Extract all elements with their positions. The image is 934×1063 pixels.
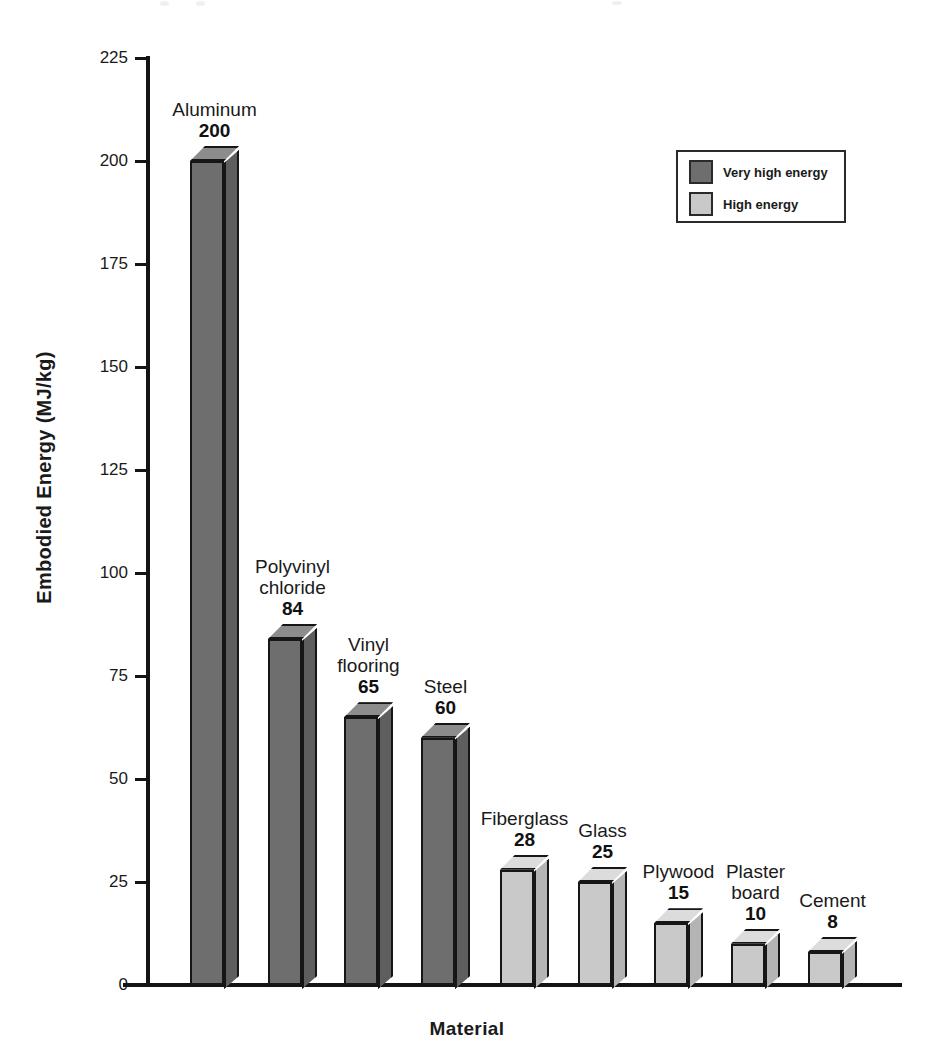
y-tick-mark [135,778,149,781]
legend-item-very-high-energy: Very high energy [689,160,828,184]
y-tick-mark [135,572,149,575]
bar-front-face [421,738,455,985]
y-tick-mark [135,469,149,472]
bar-side-face [534,859,549,989]
y-tick-mark [135,263,149,266]
bar-value-label: 84 [233,598,353,620]
scan-artifact [160,1,169,6]
bar-front-face [654,923,688,985]
y-tick-label: 0 [66,976,128,993]
embodied-energy-bar-chart: Embodied Energy (MJ/kg) Material 0255075… [0,0,934,1063]
y-tick-mark [135,57,149,60]
y-tick-label: 225 [66,49,128,66]
y-tick-label: 125 [66,461,128,478]
y-tick-mark [135,366,149,369]
y-tick-mark [135,984,149,987]
bar-side-face [378,706,393,989]
bar-category-label: Polyvinyl chloride [223,556,363,598]
y-tick-label: 100 [66,564,128,581]
bar-front-face [190,161,224,985]
bar-value-label: 8 [773,911,893,933]
bar-category-label: Vinyl flooring [299,634,439,676]
y-tick-label: 175 [66,255,128,272]
y-tick-label: 25 [66,873,128,890]
bar-front-face [731,944,765,985]
bar-value-label: 60 [386,697,506,719]
legend-item-high-energy: High energy [689,192,798,216]
bar-vinyl-flooring [344,702,393,987]
bar-category-label: Cement [763,890,903,911]
y-tick-label: 50 [66,770,128,787]
bar-plaster-board [731,929,780,987]
legend-label-high-energy: High energy [723,197,798,212]
bar-category-label: Steel [376,676,516,697]
bar-value-label: 200 [155,120,275,142]
bar-side-face [455,727,470,989]
legend-label-very-high-energy: Very high energy [723,165,828,180]
y-tick-mark [135,160,149,163]
bar-fiberglass [500,855,549,987]
scan-artifact [196,1,205,6]
bar-category-label: Aluminum [145,99,285,120]
bar-value-label: 25 [543,841,663,863]
y-axis-line [146,56,150,987]
bar-cement [808,937,857,987]
bar-front-face [808,952,842,985]
y-tick-mark [135,675,149,678]
bar-front-face [268,639,302,985]
bar-front-face [344,717,378,985]
legend-swatch-high-energy [689,192,713,216]
bar-category-label: Glass [533,820,673,841]
bar-steel [421,723,470,987]
legend: Very high energy High energy [676,150,846,223]
scan-artifact [612,1,622,5]
bar-front-face [500,870,534,985]
x-axis-title: Material [0,1018,934,1040]
bar-front-face [578,882,612,985]
y-tick-mark [135,881,149,884]
y-tick-label: 200 [66,152,128,169]
y-tick-label: 75 [66,667,128,684]
y-axis-title: Embodied Energy (MJ/kg) [33,268,56,688]
y-tick-label: 150 [66,358,128,375]
legend-swatch-very-high-energy [689,160,713,184]
